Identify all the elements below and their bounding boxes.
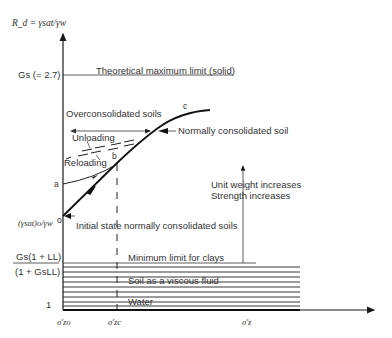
reloading-label: Reloading [64,158,107,168]
point-o: o [57,216,62,225]
overconsolidated-label: Overconsolidated soils [66,109,162,119]
viscous-fluid-label: Soil as a viscous fluid [128,276,219,286]
point-c: c [183,102,187,111]
minimum-limit-label: Minimum limit for clays [128,253,224,263]
gs-label: Gs (= 2.7) [18,70,61,80]
point-a: a [54,180,59,189]
water-label: Water [128,297,153,307]
normally-consolidated-label: Normally consolidated soil [178,126,288,136]
x-tick-sigma-zo: σ'zo [57,318,71,327]
fraction-numerator: Gs(1 + LL) [16,252,61,262]
initial-state-label: Initial state normally consolidated soil… [76,221,238,231]
viscous-fluid-zone [63,267,300,306]
fraction-denominator: (1 + GsLL) [15,267,60,277]
diagram-canvas [0,0,392,338]
x-tick-sigma-z: σ'z [242,318,251,327]
initial-ratio-label: (γsat)o/γw [18,219,53,228]
point-b: b [112,152,117,161]
unloading-label: Unloading [72,133,115,143]
x-tick-sigma-zc: σ'zc [108,318,121,327]
unit-weight-label: Unit weight increases [211,180,301,190]
theoretical-max-label: Theoretical maximum limit (solid) [96,66,235,76]
strength-label: Strength increases [211,191,290,201]
y-axis-label: R_d = γsat/γw [12,19,66,29]
y-tick-one: 1 [46,300,51,310]
